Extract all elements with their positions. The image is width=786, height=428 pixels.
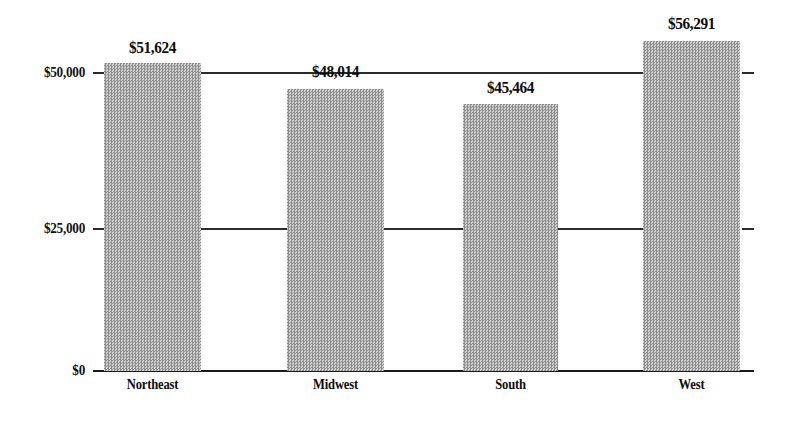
tick-stub-25000-right xyxy=(742,228,754,230)
plot-area: $50,000 $25,000 $0 $51,624 $48,014 $45,4… xyxy=(0,0,786,428)
value-label-midwest: $48,014 xyxy=(285,62,387,82)
bar-chart: $50,000 $25,000 $0 $51,624 $48,014 $45,4… xyxy=(0,0,786,428)
bar-west[interactable] xyxy=(643,41,740,371)
bar-south[interactable] xyxy=(463,104,558,371)
category-label-south: South xyxy=(456,377,565,393)
tick-stub-50000-right xyxy=(742,72,754,74)
category-label-midwest: Midwest xyxy=(281,377,390,393)
value-label-south: $45,464 xyxy=(460,78,562,98)
ytick-label-25000: $25,000 xyxy=(10,220,85,237)
ytick-label-50000: $50,000 xyxy=(10,64,85,81)
category-label-west: West xyxy=(637,377,746,393)
ytick-label-0: $0 xyxy=(10,362,85,379)
value-label-northeast: $51,624 xyxy=(102,38,204,58)
bar-northeast[interactable] xyxy=(104,63,201,371)
bar-midwest[interactable] xyxy=(287,89,384,371)
value-label-west: $56,291 xyxy=(641,14,743,34)
category-label-northeast: Northeast xyxy=(98,377,207,393)
